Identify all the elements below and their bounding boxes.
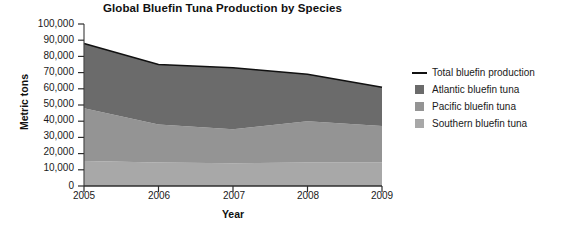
legend-label: Pacific bluefin tuna bbox=[432, 101, 516, 112]
legend-item-southern[interactable]: Southern bluefin tuna bbox=[409, 115, 567, 132]
area-southern-bluefin-tuna bbox=[84, 161, 382, 186]
y-tick-marks bbox=[78, 24, 84, 186]
square-marker-icon bbox=[415, 102, 424, 111]
chart-container: Global Bluefin Tuna Production by Specie… bbox=[0, 0, 570, 231]
legend-item-total[interactable]: Total bluefin production bbox=[409, 64, 567, 81]
legend-item-atlantic[interactable]: Atlantic bluefin tuna bbox=[409, 81, 567, 98]
chart-legend: Total bluefin production Atlantic bluefi… bbox=[409, 64, 567, 132]
line-marker-icon bbox=[412, 72, 427, 74]
area-series-group bbox=[84, 43, 382, 186]
legend-label: Southern bluefin tuna bbox=[432, 118, 527, 129]
x-tick-marks bbox=[84, 186, 382, 192]
legend-item-pacific[interactable]: Pacific bluefin tuna bbox=[409, 98, 567, 115]
square-marker-icon bbox=[415, 119, 424, 128]
legend-label: Atlantic bluefin tuna bbox=[432, 84, 519, 95]
square-marker-icon bbox=[415, 85, 424, 94]
legend-label: Total bluefin production bbox=[432, 67, 535, 78]
